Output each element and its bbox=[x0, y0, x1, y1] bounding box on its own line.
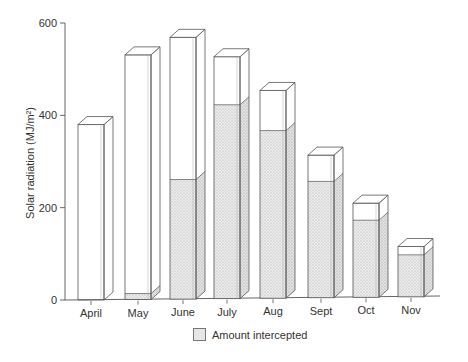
bar-front bbox=[125, 55, 151, 300]
bar-june bbox=[170, 29, 205, 299]
bar-top bbox=[214, 49, 249, 57]
intercepted-front bbox=[308, 181, 334, 297]
bars bbox=[78, 29, 433, 300]
bar-aug bbox=[260, 82, 295, 298]
bar-top bbox=[78, 117, 113, 125]
bar-top bbox=[125, 47, 160, 55]
bar-top bbox=[308, 147, 343, 155]
bar-oct bbox=[353, 195, 388, 297]
x-axis-line bbox=[65, 296, 440, 300]
bar-sept bbox=[308, 147, 343, 298]
legend-swatch-intercepted bbox=[193, 328, 206, 341]
x-category-label: June bbox=[171, 306, 195, 318]
bar-side bbox=[104, 117, 113, 300]
intercepted-side bbox=[334, 173, 343, 297]
intercepted-side bbox=[286, 123, 295, 299]
y-tick-label: 0 bbox=[51, 294, 57, 306]
bar-side bbox=[151, 47, 160, 300]
bar-top bbox=[170, 29, 205, 37]
x-category-label: Aug bbox=[263, 305, 283, 317]
legend: Amount intercepted bbox=[193, 328, 307, 341]
intercepted-side bbox=[196, 172, 205, 300]
x-category-label: April bbox=[80, 307, 102, 319]
bar-april bbox=[78, 117, 113, 300]
intercepted-front bbox=[398, 255, 424, 297]
x-category-label: Sept bbox=[310, 305, 333, 317]
y-tick-label: 200 bbox=[39, 202, 57, 214]
intercepted-side bbox=[424, 247, 433, 297]
intercepted-side bbox=[240, 97, 249, 299]
bar-chart: 0200400600Solar radiation (MJ/m²)AprilMa… bbox=[0, 0, 468, 362]
x-category-label: July bbox=[217, 306, 237, 318]
bar-july bbox=[214, 49, 249, 299]
intercepted-side bbox=[379, 212, 388, 297]
x-category-label: May bbox=[128, 307, 149, 319]
y-axis-title: Solar radiation (MJ/m²) bbox=[24, 107, 36, 219]
bar-top bbox=[353, 195, 388, 203]
x-category-label: Oct bbox=[357, 304, 374, 316]
intercepted-front bbox=[353, 220, 379, 297]
y-tick-label: 400 bbox=[39, 109, 57, 121]
intercepted-front bbox=[260, 131, 286, 299]
bar-top bbox=[398, 239, 433, 247]
bar-front bbox=[78, 125, 104, 300]
bar-may bbox=[125, 47, 160, 300]
bar-top bbox=[260, 82, 295, 90]
intercepted-front bbox=[214, 105, 240, 299]
intercepted-front bbox=[170, 180, 196, 300]
legend-label: Amount intercepted bbox=[212, 329, 307, 341]
bar-nov bbox=[398, 239, 433, 297]
intercepted-front bbox=[125, 294, 151, 300]
y-tick-label: 600 bbox=[39, 17, 57, 29]
x-category-label: Nov bbox=[401, 304, 421, 316]
